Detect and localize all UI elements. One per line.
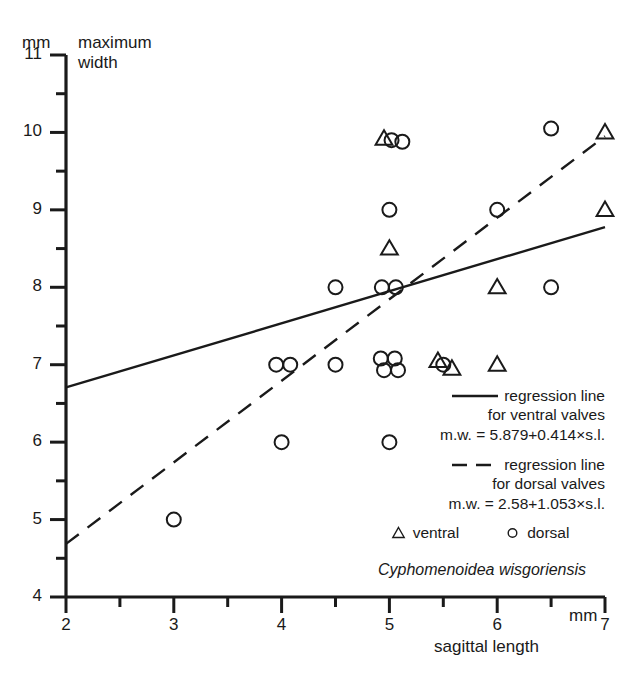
y-tick-label: 6 [8,431,42,451]
x-tick-label: 5 [369,615,409,635]
y-tick-label: 4 [8,586,42,606]
legend-key-dorsal-label: dorsal [527,523,569,542]
y-axis-ticks [50,55,66,597]
circle-icon [505,525,520,540]
y-tick-label: 9 [8,199,42,219]
legend-key-ventral: ventral [391,523,460,542]
species-caption: Cyphomenoidea wisgoriensis [358,561,606,579]
x-axis-ticks [66,597,605,613]
legend-ventral-line-row: regression line [355,386,605,405]
legend-marker-keys: ventral dorsal [355,523,605,542]
y-tick-label: 10 [8,121,42,141]
legend-sample-spacer-1 [432,405,488,424]
y-tick-label: 7 [8,354,42,374]
legend-dorsal-equation: m.w. = 2.58+1.053×s.l. [355,494,605,513]
x-tick-label: 7 [585,615,619,635]
y-tick-label: 8 [8,276,42,296]
y-axis-title: maximumwidth [78,33,152,73]
y-tick-label: 11 [8,44,42,64]
legend-ventral-equation: m.w. = 5.879+0.414×s.l. [355,425,605,444]
legend-sample-spacer-2 [436,474,492,493]
y-axis-title-line2: width [78,53,118,72]
y-axis-title-line1: maximum [78,33,152,52]
legend-dashed-line-sample [448,455,504,474]
chart-legend: regression line for ventral valves m.w. … [355,386,605,542]
legend-divider-space [355,444,605,455]
y-tick-label: 5 [8,509,42,529]
legend-solid-line-sample [448,386,504,405]
legend-key-dorsal: dorsal [505,523,569,542]
legend-dorsal-line-row-2: for dorsal valves [355,474,605,493]
legend-ventral-line-label-1: regression line [504,386,605,405]
x-tick-label: 3 [154,615,194,635]
x-tick-label: 2 [46,615,86,635]
legend-dorsal-line-label-2: for dorsal valves [492,474,605,493]
legend-dorsal-line-label-1: regression line [504,455,605,474]
x-tick-label: 6 [477,615,517,635]
chart-figure: mm maximumwidth sagittal length mm 45678… [0,0,619,673]
x-tick-label: 4 [262,615,302,635]
legend-key-ventral-label: ventral [413,523,460,542]
legend-ventral-line-label-2: for ventral valves [488,405,605,424]
triangle-icon [391,525,406,540]
legend-ventral-line-row-2: for ventral valves [355,405,605,424]
x-axis-title: sagittal length [434,637,539,657]
legend-dorsal-line-row: regression line [355,455,605,474]
